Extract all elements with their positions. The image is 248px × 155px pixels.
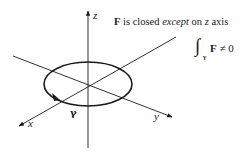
y-axis-label: y [154,111,159,122]
integral-relation: ≠ 0 [219,42,233,54]
curve-gamma-label: γ [70,108,77,118]
integrand-F: F [210,42,217,54]
y-axis [13,56,172,117]
x-axis-label: x [28,118,33,129]
z-axis-label: z [93,10,97,21]
annotation-text-1: is closed [120,16,162,27]
closed-form-annotation: F is closed except on z axis [114,17,228,28]
curve-direction-arrow-icon [52,93,60,101]
integral-body: F ≠ 0 [210,43,234,54]
annotation-text-3: axis [209,16,229,27]
annotation-text-2: on [189,16,205,27]
line-integral-formula: ∫ γ F ≠ 0 [195,42,245,64]
x-axis [19,37,176,126]
integral-subscript: γ [203,54,206,61]
annotation-italic: except [162,16,189,27]
integral-sign: ∫ [195,36,200,55]
